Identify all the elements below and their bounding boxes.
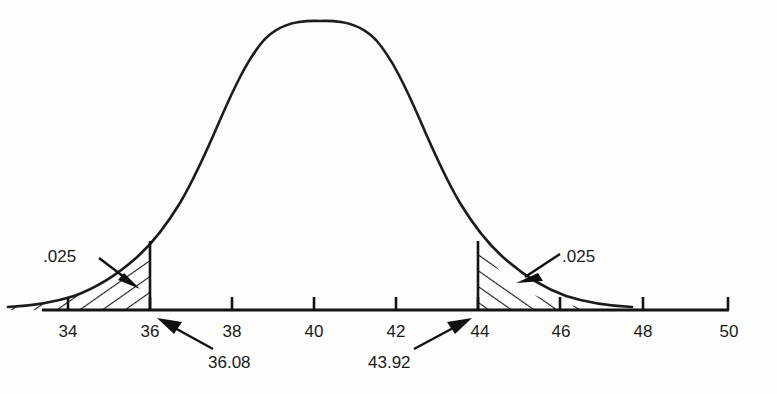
left-tail-hatching <box>0 230 160 315</box>
upper-bound-callout: 43.92 <box>368 318 472 372</box>
tick-label-42: 42 <box>387 322 406 341</box>
right-tail-hatching <box>470 230 625 315</box>
lower-bound-arrow-head <box>157 318 182 334</box>
tick-label-38: 38 <box>223 322 242 341</box>
normal-curve <box>8 21 632 307</box>
left-area-label: .025 <box>43 247 76 266</box>
lower-bound-arrow-shaft <box>173 327 213 349</box>
tick-label-40: 40 <box>305 322 324 341</box>
distribution-plot: 34 36 38 40 42 44 46 48 50 .025 .025 36.… <box>0 0 777 394</box>
tick-label-50: 50 <box>720 322 739 341</box>
upper-bound-arrow-head <box>447 318 472 334</box>
tick-label-34: 34 <box>59 322 78 341</box>
x-axis-tick-labels: 34 36 38 40 42 44 46 48 50 <box>59 322 739 341</box>
upper-bound-arrow-shaft <box>414 327 455 349</box>
tick-label-44: 44 <box>471 322 490 341</box>
tick-label-48: 48 <box>634 322 653 341</box>
right-area-label: .025 <box>562 247 595 266</box>
right-tail-region <box>470 230 625 315</box>
tick-label-36: 36 <box>141 322 160 341</box>
normal-distribution-figure: 34 36 38 40 42 44 46 48 50 .025 .025 36.… <box>0 0 777 394</box>
right-area-arrow-shaft <box>525 254 560 277</box>
tick-label-46: 46 <box>552 322 571 341</box>
upper-bound-label: 43.92 <box>368 353 411 372</box>
left-tail-region <box>0 230 160 315</box>
lower-bound-label: 36.08 <box>208 353 251 372</box>
